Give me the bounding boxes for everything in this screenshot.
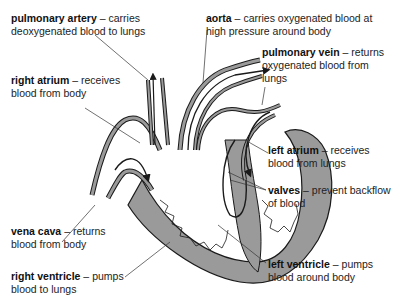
separator: – — [340, 46, 352, 58]
separator: – — [319, 144, 331, 156]
description: pumps — [342, 258, 374, 270]
term: right atrium — [11, 74, 69, 86]
separator: – — [80, 270, 92, 282]
separator: – — [61, 225, 73, 237]
term: pulmonary vein — [262, 46, 340, 58]
separator: – — [69, 74, 81, 86]
label-aorta: aorta – carries oxygenated blood at high… — [206, 12, 372, 38]
description: blood around body — [268, 271, 355, 283]
term: left ventricle — [268, 258, 330, 270]
heart-diagram: pulmonary artery – carries deoxygenated … — [0, 0, 399, 306]
label-valves: valves – prevent backflow of blood — [268, 184, 391, 210]
description: blood from lungs — [268, 157, 346, 169]
separator: – — [232, 12, 244, 24]
description: deoxygenated blood to lungs — [11, 25, 145, 37]
label-left-atrium: left atrium – receives blood from lungs — [268, 144, 370, 170]
term: aorta — [206, 12, 232, 24]
description: lungs — [262, 72, 287, 84]
separator: – — [330, 258, 342, 270]
separator: – — [97, 12, 109, 24]
description: prevent backflow — [312, 184, 391, 196]
description: carries oxygenated blood at — [243, 12, 372, 24]
description: high pressure around body — [206, 25, 331, 37]
label-right-atrium: right atrium – receives blood from body — [11, 74, 120, 100]
description: returns — [73, 225, 106, 237]
description: blood from body — [11, 238, 86, 250]
separator: – — [300, 184, 312, 196]
description: receives — [81, 74, 120, 86]
description: oxygenated blood from — [262, 59, 369, 71]
label-right-ventricle: right ventricle – pumps blood to lungs — [11, 270, 124, 296]
label-vena-cava: vena cava – returns blood from body — [11, 225, 106, 251]
term: left atrium — [268, 144, 319, 156]
label-pulmonary-vein: pulmonary vein – returns oxygenated bloo… — [262, 46, 384, 85]
description: returns — [351, 46, 384, 58]
label-left-ventricle: left ventricle – pumps blood around body — [268, 258, 373, 284]
term: valves — [268, 184, 300, 196]
term: vena cava — [11, 225, 61, 237]
description: of blood — [268, 197, 305, 209]
description: receives — [330, 144, 369, 156]
description: blood to lungs — [11, 283, 76, 295]
label-pulmonary-artery: pulmonary artery – carries deoxygenated … — [11, 12, 145, 38]
term: pulmonary artery — [11, 12, 97, 24]
description: carries — [108, 12, 140, 24]
term: right ventricle — [11, 270, 80, 282]
description: blood from body — [11, 87, 86, 99]
description: pumps — [92, 270, 124, 282]
